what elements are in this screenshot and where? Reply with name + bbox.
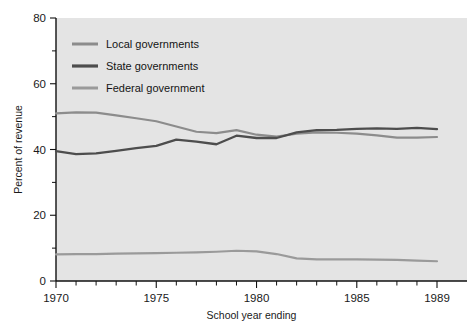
x-axis-tick-label: 1970	[43, 292, 69, 304]
x-axis-tick-label: 1985	[344, 292, 370, 304]
y-axis-tick-label: 0	[40, 275, 46, 287]
line-chart: 02040608019701975198019851989School year…	[0, 0, 467, 332]
chart-figure: 02040608019701975198019851989School year…	[0, 0, 467, 332]
series-line-federal-government	[56, 251, 437, 262]
x-axis-tick-label: 1989	[424, 292, 450, 304]
series-line-local-governments	[56, 112, 437, 137]
y-axis-tick-label: 40	[33, 144, 46, 156]
y-axis-tick-label: 20	[33, 209, 46, 221]
legend-label: State governments	[106, 60, 199, 72]
x-axis-tick-label: 1980	[244, 292, 270, 304]
y-axis-tick-label: 80	[33, 12, 46, 24]
x-axis-title: School year ending	[207, 309, 297, 321]
y-axis-title: Percent of revenue	[12, 105, 24, 194]
x-axis-tick-label: 1975	[143, 292, 169, 304]
legend-label: Federal government	[106, 82, 204, 94]
legend-label: Local governments	[106, 38, 199, 50]
y-axis-tick-label: 60	[33, 78, 46, 90]
